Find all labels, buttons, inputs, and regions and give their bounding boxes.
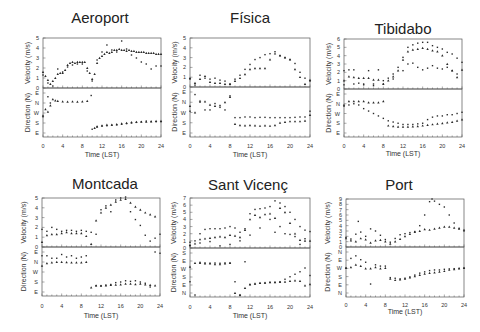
- data-point-triangle: [304, 240, 306, 242]
- data-point-dot: [146, 120, 147, 121]
- data-point-dot: [199, 75, 200, 76]
- x-tick-label: 12: [247, 304, 253, 310]
- data-point-dot: [279, 117, 280, 118]
- data-point-triangle: [80, 232, 82, 234]
- data-point-dot: [239, 75, 240, 76]
- data-point-dot: [274, 117, 275, 118]
- data-point-triangle: [79, 61, 81, 63]
- velocity-tick-label: 3: [183, 224, 186, 230]
- data-point-triangle: [59, 72, 61, 74]
- data-point-triangle: [377, 79, 379, 81]
- data-point-dot: [224, 262, 225, 263]
- data-point-triangle: [355, 240, 357, 242]
- velocity-axis-label: Velocity (m/s): [325, 43, 333, 85]
- data-point-dot: [407, 47, 408, 48]
- x-tick-label: 4: [208, 304, 211, 310]
- data-point-triangle: [353, 76, 355, 78]
- data-point-triangle: [214, 82, 216, 84]
- data-point-triangle: [239, 236, 241, 238]
- data-point-dot: [385, 265, 386, 266]
- x-tick-label: 16: [119, 143, 125, 149]
- data-point-triangle: [150, 52, 152, 54]
- data-point-triangle: [279, 121, 281, 123]
- data-point-dot: [120, 197, 121, 198]
- data-point-dot: [348, 104, 349, 105]
- data-point-dot: [136, 57, 137, 58]
- data-point-dot: [309, 231, 310, 232]
- data-point-dot: [437, 67, 438, 68]
- data-point-triangle: [46, 262, 48, 264]
- data-point-triangle: [234, 235, 236, 237]
- data-point-dot: [76, 258, 77, 259]
- data-point-dot: [234, 78, 235, 79]
- velocity-tick-label: 5: [337, 44, 340, 50]
- direction-tick-label: S: [182, 120, 186, 126]
- data-point-triangle: [124, 283, 126, 285]
- direction-series-dir-b: [345, 255, 464, 285]
- data-point-triangle: [254, 67, 256, 69]
- data-point-triangle: [402, 126, 404, 128]
- data-point-triangle: [110, 204, 112, 206]
- data-point-triangle: [60, 232, 62, 234]
- data-point-triangle: [289, 120, 291, 122]
- data-point-dot: [456, 57, 457, 58]
- velocity-tick-label: 1: [183, 238, 186, 244]
- direction-panel-frame: [346, 247, 464, 297]
- direction-panel-frame: [190, 248, 310, 297]
- velocity-tick-label: 6: [339, 212, 342, 218]
- data-point-triangle: [108, 52, 110, 54]
- data-point-triangle: [44, 75, 46, 77]
- data-point-dot: [437, 47, 438, 48]
- data-point-dot: [370, 228, 371, 229]
- data-point-dot: [304, 229, 305, 230]
- velocity-tick-label: 4: [183, 45, 186, 51]
- data-point-dot: [345, 237, 346, 238]
- data-point-triangle: [353, 100, 355, 102]
- data-point-triangle: [436, 123, 438, 125]
- velocity-tick-label: 3: [35, 215, 38, 221]
- velocity-series-obs-a: [343, 47, 463, 85]
- direction-tick-label: E: [34, 249, 38, 255]
- data-point-dot: [234, 117, 235, 118]
- velocity-tick-label: 1: [337, 78, 340, 84]
- velocity-tick-label: 2: [35, 224, 38, 230]
- data-point-triangle: [264, 67, 266, 69]
- data-point-triangle: [85, 261, 87, 263]
- data-point-triangle: [51, 261, 53, 263]
- data-point-triangle: [224, 83, 226, 85]
- data-point-dot: [219, 228, 220, 229]
- data-point-triangle: [254, 214, 256, 216]
- x-tick-label: 0: [41, 143, 44, 149]
- data-point-triangle: [284, 280, 286, 282]
- data-point-triangle: [65, 231, 67, 233]
- velocity-tick-label: 3: [36, 55, 39, 61]
- direction-axis-label: Direction (N): [325, 93, 333, 132]
- data-point-dot: [434, 269, 435, 270]
- data-point-dot: [229, 244, 230, 245]
- data-point-triangle: [294, 120, 296, 122]
- data-point-dot: [199, 242, 200, 243]
- data-point-dot: [90, 232, 91, 233]
- data-point-dot: [224, 109, 225, 110]
- velocity-tick-label: 3: [183, 55, 186, 61]
- data-point-triangle: [214, 105, 216, 107]
- direction-series-dir-b: [189, 94, 310, 118]
- data-point-triangle: [426, 124, 428, 126]
- direction-tick-label: N: [338, 290, 342, 296]
- data-point-triangle: [54, 77, 56, 79]
- data-point-dot: [449, 268, 450, 269]
- data-point-triangle: [91, 78, 93, 80]
- direction-tick-label: N: [182, 290, 186, 296]
- data-point-triangle: [289, 222, 291, 224]
- data-point-triangle: [113, 49, 115, 51]
- data-point-dot: [447, 52, 448, 53]
- data-point-dot: [368, 110, 369, 111]
- data-point-dot: [432, 65, 433, 66]
- direction-tick-label: N: [338, 249, 342, 255]
- data-point-dot: [412, 124, 413, 125]
- x-tick-label: 0: [40, 303, 43, 309]
- data-point-dot: [259, 208, 260, 209]
- velocity-tick-label: 1: [35, 234, 38, 240]
- data-point-triangle: [209, 81, 211, 83]
- data-point-dot: [442, 48, 443, 49]
